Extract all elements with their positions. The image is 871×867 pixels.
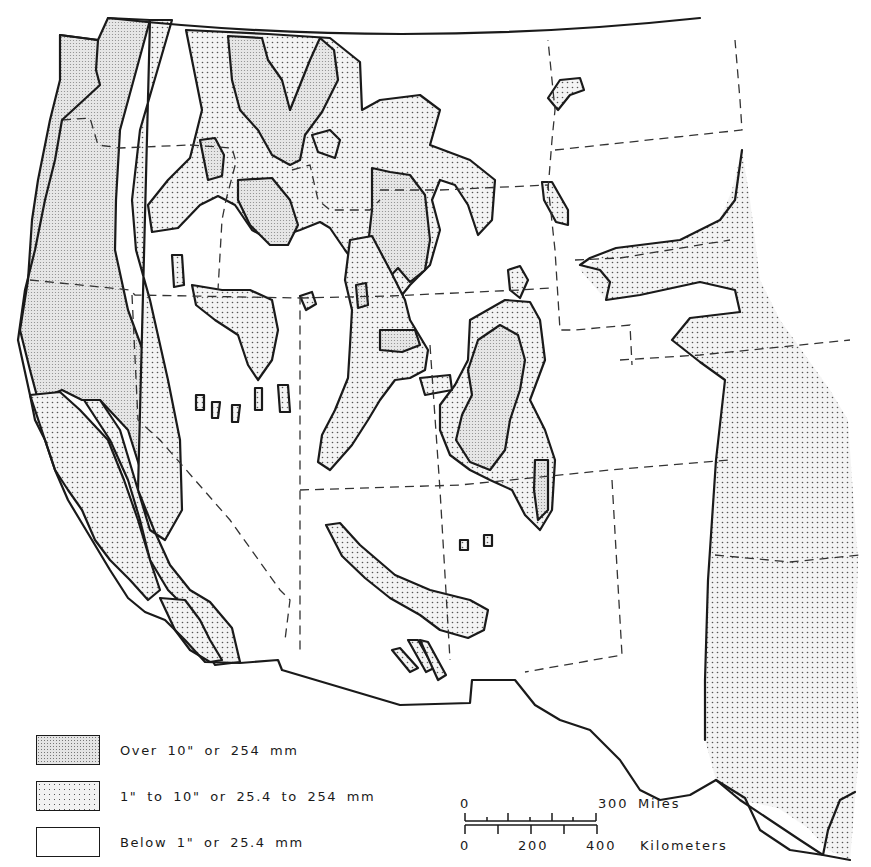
- zone-colorado-rockies: [440, 300, 555, 530]
- scale-miles-start: 0: [460, 796, 470, 811]
- scale-km-200: 200: [518, 838, 548, 853]
- scale-ruler: [458, 812, 608, 836]
- scale-miles-unit: Miles: [638, 796, 680, 811]
- scale-km-400: 400: [586, 838, 616, 853]
- legend: Over 10" or 254 mm 1" to 10" or 25.4 to …: [36, 727, 375, 865]
- legend-item-moderate: 1" to 10" or 25.4 to 254 mm: [36, 773, 375, 819]
- legend-label: Over 10" or 254 mm: [120, 743, 299, 758]
- scale-km-unit: Kilometers: [640, 838, 728, 853]
- legend-swatch-blank: [36, 827, 100, 857]
- zone-great-plains: [580, 150, 860, 860]
- legend-label: 1" to 10" or 25.4 to 254 mm: [120, 789, 375, 804]
- scale-km-0: 0: [460, 838, 470, 853]
- legend-item-heavy: Over 10" or 254 mm: [36, 727, 375, 773]
- zone-northern-rockies: [148, 30, 495, 300]
- scale-bar: 0 300 Miles 0 200 400 Kilometers: [458, 790, 788, 860]
- legend-swatch-dense-stipple: [36, 735, 100, 765]
- legend-item-low: Below 1" or 25.4 mm: [36, 819, 375, 865]
- legend-swatch-sparse-stipple: [36, 781, 100, 811]
- scale-miles-end: 300: [598, 796, 628, 811]
- legend-label: Below 1" or 25.4 mm: [120, 835, 304, 850]
